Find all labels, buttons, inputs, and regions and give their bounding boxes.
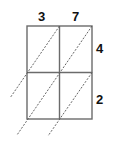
- top-digit-2: 7: [72, 10, 79, 23]
- top-digit-1: 3: [38, 10, 45, 23]
- right-digit-2: 2: [96, 93, 103, 106]
- lattice-grid: [0, 0, 115, 142]
- diagonal-1: [10, 26, 60, 98]
- diagonal-3: [48, 73, 92, 137]
- right-digit-1: 4: [96, 42, 103, 55]
